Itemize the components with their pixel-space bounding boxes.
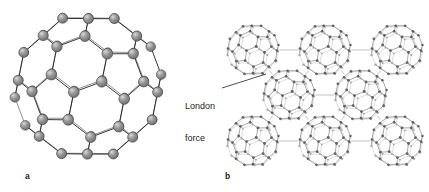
panel-a-label: a <box>25 172 30 181</box>
panel-b-label: b <box>225 172 230 181</box>
annotation-london-force-line1: London <box>185 101 215 112</box>
annotation-london-force: London force <box>185 80 215 164</box>
figure-root: London force a b <box>0 0 429 192</box>
leader-line <box>222 74 266 88</box>
annotation-london-force-line2: force <box>185 133 215 144</box>
